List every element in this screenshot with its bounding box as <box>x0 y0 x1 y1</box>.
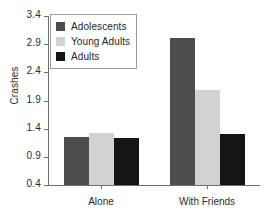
legend-entry: Adolescents <box>56 19 130 34</box>
bar-adolescents-alone <box>64 137 89 185</box>
y-tick-label: 3.4 <box>26 9 41 20</box>
y-axis-tick: 0.4 <box>0 185 48 186</box>
y-tick-label: 2.9 <box>26 37 41 48</box>
y-tick-label: 0.4 <box>26 178 41 189</box>
y-tick-label: 2.4 <box>26 65 41 76</box>
x-axis-line <box>48 185 260 186</box>
y-axis-tick: 1.9 <box>0 101 48 102</box>
legend-entry: Young Adults <box>56 34 130 49</box>
chart-legend: AdolescentsYoung AdultsAdults <box>50 14 137 69</box>
legend-swatch-icon <box>56 37 65 46</box>
x-axis-category-label: With Friends <box>154 196 260 207</box>
bar-chart: Crashes 3.42.92.41.91.40.90.4 AloneWith … <box>0 0 268 223</box>
y-tick-label: 0.9 <box>26 150 41 161</box>
bar-adults-with-friends <box>220 134 245 185</box>
y-axis-tick: 2.9 <box>0 44 48 45</box>
bar-young-adults-with-friends <box>195 90 220 185</box>
legend-label: Adolescents <box>71 21 127 32</box>
y-axis-tick: 3.4 <box>0 16 48 17</box>
x-tick-mark <box>101 185 102 189</box>
y-axis-tick: 0.9 <box>0 157 48 158</box>
legend-swatch-icon <box>56 52 65 61</box>
legend-swatch-icon <box>56 22 65 31</box>
y-tick-mark <box>44 185 48 186</box>
y-axis-tick: 2.4 <box>0 72 48 73</box>
legend-label: Young Adults <box>71 36 130 47</box>
legend-label: Adults <box>71 51 99 62</box>
bar-adults-alone <box>114 138 139 185</box>
legend-entry: Adults <box>56 49 130 64</box>
bar-adolescents-with-friends <box>170 38 195 185</box>
bar-young-adults-alone <box>89 133 114 185</box>
y-axis-tick: 1.4 <box>0 129 48 130</box>
y-tick-label: 1.4 <box>26 122 41 133</box>
x-axis-category-label: Alone <box>48 196 154 207</box>
x-tick-mark <box>207 185 208 189</box>
y-tick-label: 1.9 <box>26 94 41 105</box>
y-axis-title: Crashes <box>9 46 20 126</box>
